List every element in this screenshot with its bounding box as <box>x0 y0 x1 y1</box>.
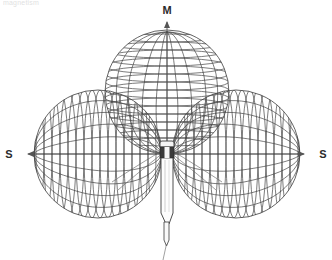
radiation-pattern-figure: M S S <box>0 0 332 260</box>
probe-shaft <box>161 151 173 224</box>
m-axis-label: M <box>162 4 171 16</box>
probe-head <box>160 141 174 147</box>
caption-fragment: magnetism <box>3 0 39 6</box>
figure-root: magnetism <box>0 0 332 260</box>
s-axis-label-left: S <box>5 148 12 160</box>
s-axis-label-right: S <box>319 148 326 160</box>
probe-needle <box>163 244 167 260</box>
probe-collar-gap <box>165 147 170 158</box>
probe-tip <box>164 222 169 246</box>
